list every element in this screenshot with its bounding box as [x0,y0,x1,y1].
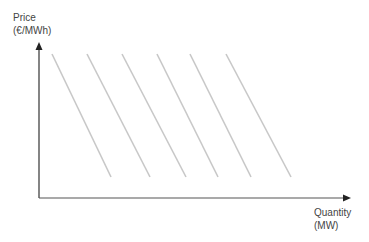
supply-curve-3 [122,54,186,177]
supply-curve-1 [52,54,111,177]
supply-curve-2 [87,54,150,177]
supply-curve-4 [157,54,218,177]
y-axis-label-line2: (€/MWh) [13,24,51,37]
x-axis-label-line2: (MW) [314,219,351,232]
supply-curve-5 [190,54,251,177]
x-axis-arrowhead-icon [343,195,351,202]
y-axis-label-line1: Price [13,11,51,24]
supply-curves [52,54,291,177]
x-axis-label: Quantity (MW) [314,206,351,232]
x-axis-label-line1: Quantity [314,206,351,219]
y-axis-arrowhead-icon [36,42,43,50]
supply-curve-6 [226,54,291,177]
y-axis-label: Price (€/MWh) [13,11,51,37]
